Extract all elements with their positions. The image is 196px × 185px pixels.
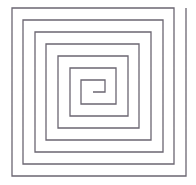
spiral-diagram — [0, 0, 196, 185]
